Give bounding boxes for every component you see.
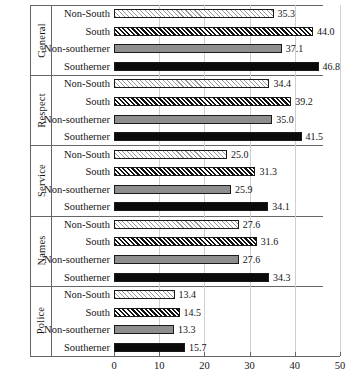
- x-tick-50: [340, 352, 341, 356]
- bar-non-south: [114, 150, 227, 159]
- bar-row: 31.6: [114, 233, 340, 251]
- bar-value-label: 25.0: [231, 149, 249, 160]
- bar-label-south: South: [52, 233, 114, 251]
- bar-south: [114, 308, 180, 317]
- bar-non-south: [114, 79, 269, 88]
- bar-south: [114, 27, 313, 36]
- panel-plot-general: 35.344.037.146.8: [114, 5, 340, 75]
- panel-strip-respect: Respect: [30, 75, 52, 145]
- bar-south: [114, 167, 255, 176]
- x-tick-label-40: 40: [290, 360, 301, 371]
- bar-label-southerner: Southerner: [52, 58, 114, 76]
- bar-value-label: 39.2: [295, 96, 313, 107]
- x-tick-10: [159, 352, 160, 356]
- bar-row: 34.1: [114, 198, 340, 216]
- bar-value-label: 27.6: [243, 254, 261, 265]
- x-tick-label-50: 50: [335, 360, 346, 371]
- bar-row: 27.6: [114, 216, 340, 234]
- bar-label-southerner: Southerner: [52, 128, 114, 146]
- bar-row: 25.9: [114, 180, 340, 198]
- panel-strip-service: Service: [30, 145, 52, 215]
- bar-label-non-south: Non-South: [52, 75, 114, 93]
- gridline-50: [340, 75, 341, 145]
- bar-value-label: 13.4: [179, 289, 197, 300]
- bar-southerner: [114, 132, 302, 141]
- gridline-50: [340, 5, 341, 75]
- bar-label-non-south: Non-South: [52, 5, 114, 23]
- panel-strip-names: Names: [30, 216, 52, 286]
- bar-row: 41.5: [114, 128, 340, 146]
- bar-row: 13.4: [114, 286, 340, 304]
- bar-label-south: South: [52, 23, 114, 41]
- bar-value-label: 14.5: [184, 307, 202, 318]
- row-label-column: Non-SouthSouthNon-southernerSoutherner: [52, 216, 114, 286]
- panel-strip-general: General: [30, 5, 52, 75]
- bar-value-label: 31.6: [261, 236, 279, 247]
- bar-row: 34.4: [114, 75, 340, 93]
- x-tick-label-10: 10: [154, 360, 165, 371]
- bar-non-south: [114, 220, 239, 229]
- bar-label-southerner: Southerner: [52, 268, 114, 286]
- gridline-50: [340, 216, 341, 286]
- x-tick-0: [114, 352, 115, 356]
- bar-row: 34.3: [114, 268, 340, 286]
- bar-row: 14.5: [114, 303, 340, 321]
- bar-label-southerner: Southerner: [52, 338, 114, 356]
- bar-value-label: 13.3: [178, 324, 196, 335]
- bar-chart: GeneralNon-SouthSouthNon-southernerSouth…: [0, 0, 357, 384]
- bar-southerner: [114, 273, 269, 282]
- bar-row: 39.2: [114, 93, 340, 111]
- bar-non-southerner: [114, 255, 239, 264]
- bar-row: 15.7: [114, 338, 340, 356]
- bar-label-non-southerner: Non-southerner: [52, 180, 114, 198]
- gridline-50: [340, 286, 341, 356]
- bar-row: 35.0: [114, 110, 340, 128]
- bar-row: 31.3: [114, 163, 340, 181]
- bar-label-non-south: Non-South: [52, 286, 114, 304]
- x-tick-label-20: 20: [199, 360, 210, 371]
- bar-non-southerner: [114, 44, 282, 53]
- bar-row: 44.0: [114, 23, 340, 41]
- bar-southerner: [114, 202, 268, 211]
- bar-label-south: South: [52, 303, 114, 321]
- bar-value-label: 34.4: [273, 78, 291, 89]
- bar-label-non-south: Non-South: [52, 216, 114, 234]
- row-label-column: Non-SouthSouthNon-southernerSoutherner: [52, 286, 114, 356]
- row-label-column: Non-SouthSouthNon-southernerSoutherner: [52, 75, 114, 145]
- bar-non-south: [114, 9, 274, 18]
- bar-non-south: [114, 290, 175, 299]
- bar-value-label: 34.1: [272, 201, 290, 212]
- bar-label-southerner: Southerner: [52, 198, 114, 216]
- bar-value-label: 34.3: [273, 272, 291, 283]
- x-tick-30: [250, 352, 251, 356]
- panel-plot-police: 13.414.513.315.7: [114, 286, 340, 356]
- bar-value-label: 27.6: [243, 219, 261, 230]
- x-tick-40: [295, 352, 296, 356]
- x-tick-label-0: 0: [111, 360, 116, 371]
- x-tick-20: [204, 352, 205, 356]
- panel-strip-police: Police: [30, 286, 52, 356]
- bar-label-non-south: Non-South: [52, 145, 114, 163]
- bar-value-label: 46.8: [323, 61, 341, 72]
- bar-value-label: 41.5: [306, 131, 324, 142]
- bar-label-non-southerner: Non-southerner: [52, 40, 114, 58]
- bar-south: [114, 237, 257, 246]
- x-tick-label-30: 30: [244, 360, 255, 371]
- bar-non-southerner: [114, 115, 272, 124]
- bar-value-label: 35.3: [278, 8, 296, 19]
- bar-south: [114, 97, 291, 106]
- row-label-column: Non-SouthSouthNon-southernerSoutherner: [52, 5, 114, 75]
- bar-label-non-southerner: Non-southerner: [52, 110, 114, 128]
- bar-row: 27.6: [114, 251, 340, 269]
- panel-plot-respect: 34.439.235.041.5: [114, 75, 340, 145]
- bar-value-label: 35.0: [276, 114, 294, 125]
- bar-label-south: South: [52, 93, 114, 111]
- row-label-column: Non-SouthSouthNon-southernerSoutherner: [52, 145, 114, 215]
- bar-label-non-southerner: Non-southerner: [52, 251, 114, 269]
- bar-non-southerner: [114, 325, 174, 334]
- bar-value-label: 25.9: [235, 184, 253, 195]
- bar-value-label: 31.3: [259, 166, 277, 177]
- bar-label-south: South: [52, 163, 114, 181]
- bar-row: 25.0: [114, 145, 340, 163]
- x-axis-line: [30, 356, 340, 357]
